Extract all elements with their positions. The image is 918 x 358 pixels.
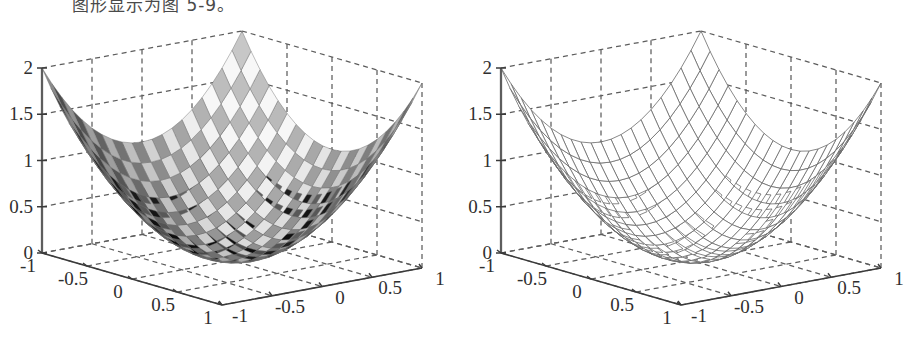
x-tick-label: 0 — [572, 281, 582, 302]
x-tick-label: 1 — [203, 307, 213, 328]
z-tick-label: 0.5 — [468, 196, 492, 217]
y-tick-label: 0 — [335, 287, 345, 308]
y-tick-label: -1 — [691, 305, 707, 326]
x-tick-label: -0.5 — [517, 268, 547, 289]
z-tick-label: 1.5 — [468, 103, 492, 124]
y-tick-label: -1 — [232, 305, 248, 326]
y-tick-label: 1 — [894, 268, 904, 289]
x-tick-label: 0 — [113, 281, 123, 302]
y-tick-label: 0.5 — [837, 277, 861, 298]
y-tick-label: -0.5 — [734, 296, 764, 317]
z-tick-label: 0.5 — [9, 196, 33, 217]
figure-shaded-surface: 21.510.5010.50-0.5-1-1-0.500.51 — [0, 18, 459, 358]
page-caption: 图形显示为图 5-9。 — [72, 0, 235, 16]
z-tick-label: 1 — [483, 150, 493, 171]
x-tick-label: 1 — [662, 307, 672, 328]
z-tick-label: 1 — [24, 150, 34, 171]
y-tick-label: 1 — [435, 268, 445, 289]
x-tick-label: 0.5 — [610, 294, 634, 315]
z-tick-label: 1.5 — [9, 103, 33, 124]
surface-plot-canvas: 21.510.5010.50-0.5-1-1-0.500.51 — [0, 18, 459, 358]
x-tick-label: 0.5 — [151, 294, 175, 315]
x-tick-label: -0.5 — [58, 268, 88, 289]
y-tick-label: 0.5 — [378, 277, 402, 298]
y-tick-label: -0.5 — [275, 296, 305, 317]
z-tick-label: 2 — [24, 57, 34, 78]
y-tick-label: 0 — [794, 287, 804, 308]
z-tick-label: 2 — [483, 57, 493, 78]
mesh-plot-canvas: 21.510.5010.50-0.5-1-1-0.500.51 — [459, 18, 918, 358]
x-tick-label: -1 — [479, 255, 495, 276]
figure-wireframe-mesh: 21.510.5010.50-0.5-1-1-0.500.51 — [459, 18, 918, 358]
x-tick-label: -1 — [20, 255, 36, 276]
